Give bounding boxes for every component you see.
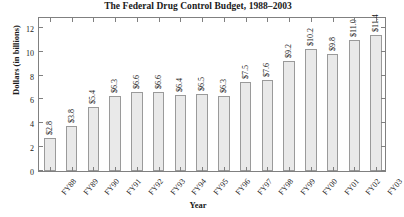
x-tick-mark (115, 167, 116, 171)
bar-value-label: $6.3 (110, 79, 119, 93)
x-tick-label: FY93 (168, 177, 187, 197)
bar-value-label: $10.2 (306, 28, 315, 46)
x-tick-mark-top (159, 18, 160, 22)
x-tick-mark-top (137, 18, 138, 22)
x-tick-label: FY92 (146, 177, 165, 197)
x-tick-mark (289, 167, 290, 171)
x-tick-label: FY88 (59, 177, 78, 197)
bar (240, 82, 251, 171)
bar-value-label: $6.3 (219, 79, 228, 93)
y-tick-mark (39, 51, 43, 52)
x-tick-label: FY02 (364, 177, 383, 197)
y-tick-mark (39, 146, 43, 147)
bar-value-label: $3.8 (67, 109, 76, 123)
bar-value-label: $9.8 (328, 37, 337, 51)
y-tick-label: 2 (10, 144, 34, 153)
x-tick-mark-top (180, 18, 181, 22)
x-tick-mark-top (115, 18, 116, 22)
x-tick-label: FY91 (125, 177, 144, 197)
x-tick-mark-top (50, 18, 51, 22)
x-tick-mark-top (354, 18, 355, 22)
bar (196, 94, 207, 172)
x-tick-mark (224, 167, 225, 171)
x-tick-label: FY97 (255, 177, 274, 197)
y-tick-mark-right (381, 122, 385, 123)
x-tick-mark-top (224, 18, 225, 22)
x-axis-title: Year (0, 200, 396, 210)
bar (349, 40, 360, 171)
x-tick-label: FY03 (386, 177, 404, 197)
bar (305, 49, 316, 171)
y-tick-mark (39, 75, 43, 76)
x-tick-mark (72, 167, 73, 171)
y-tick-mark-right (381, 98, 385, 99)
x-tick-label: FY94 (190, 177, 209, 197)
x-tick-mark (50, 167, 51, 171)
y-tick-label: 0 (10, 168, 34, 177)
x-tick-mark-top (289, 18, 290, 22)
y-tick-label: 4 (10, 120, 34, 129)
bar (109, 96, 120, 171)
x-tick-mark-top (93, 18, 94, 22)
x-tick-label: FY90 (103, 177, 122, 197)
x-tick-mark (137, 167, 138, 171)
y-tick-mark (39, 122, 43, 123)
x-tick-mark (311, 167, 312, 171)
x-tick-label: FY98 (277, 177, 296, 197)
y-tick-mark-right (381, 27, 385, 28)
x-tick-mark-top (202, 18, 203, 22)
y-tick-mark-right (381, 170, 385, 171)
bar-value-label: $6.4 (175, 78, 184, 92)
bar (262, 80, 273, 171)
x-tick-mark-top (246, 18, 247, 22)
x-tick-label: FY99 (299, 177, 318, 197)
bar (44, 138, 55, 171)
bar-value-label: $6.6 (154, 75, 163, 89)
x-tick-label: FY00 (320, 177, 339, 197)
x-tick-mark (333, 167, 334, 171)
x-tick-mark (376, 167, 377, 171)
bar (283, 61, 294, 171)
x-tick-mark (180, 167, 181, 171)
x-tick-mark (93, 167, 94, 171)
plot-area: $2.8$3.8$5.4$6.3$6.6$6.6$6.4$6.5$6.3$7.5… (38, 17, 386, 172)
y-tick-mark-right (381, 51, 385, 52)
bar-value-label: $5.4 (88, 90, 97, 104)
x-tick-mark-top (72, 18, 73, 22)
bar-value-label: $6.5 (197, 77, 206, 91)
bar (66, 126, 77, 171)
x-tick-mark (159, 167, 160, 171)
x-tick-mark-top (333, 18, 334, 22)
x-tick-mark-top (376, 18, 377, 22)
y-tick-label: 12 (10, 24, 34, 33)
bar (370, 35, 381, 171)
y-tick-mark (39, 98, 43, 99)
x-tick-mark-top (267, 18, 268, 22)
x-tick-label: FY95 (212, 177, 231, 197)
y-tick-mark-right (381, 146, 385, 147)
x-tick-mark (354, 167, 355, 171)
bar (175, 95, 186, 171)
x-tick-label: FY89 (81, 177, 100, 197)
y-tick-mark (39, 27, 43, 28)
bar-value-label: $2.8 (45, 121, 54, 135)
x-tick-mark (202, 167, 203, 171)
x-tick-label: FY96 (233, 177, 252, 197)
y-tick-label: 10 (10, 48, 34, 57)
y-tick-mark (39, 170, 43, 171)
y-tick-label: 6 (10, 96, 34, 105)
chart-title: The Federal Drug Control Budget, 1988–20… (0, 1, 396, 11)
y-tick-label: 8 (10, 72, 34, 81)
bar-value-label: $9.2 (284, 44, 293, 58)
x-tick-mark (267, 167, 268, 171)
bar (153, 92, 164, 171)
bar (218, 96, 229, 171)
bar-value-label: $7.5 (241, 65, 250, 79)
bar-value-label: $7.6 (262, 63, 271, 77)
x-tick-mark (246, 167, 247, 171)
x-tick-mark-top (311, 18, 312, 22)
bar (327, 54, 338, 171)
x-tick-label: FY01 (342, 177, 361, 197)
bar (88, 107, 99, 171)
